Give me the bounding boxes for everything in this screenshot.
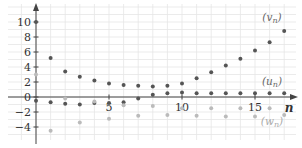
point-vn [253,49,257,53]
point-vn [49,56,53,60]
point-wn [151,104,155,108]
point-vn [165,84,169,88]
x-axis-arrow-icon [290,94,298,100]
y-tick-label: 0 [24,91,31,104]
point-vn [180,82,184,86]
point-vn [224,64,228,68]
point-vn [238,57,242,61]
y-tick-label: 10 [17,16,31,29]
point-vn [151,85,155,89]
point-un [180,91,184,95]
point-wn [136,114,140,118]
x-axis-label: n [285,101,294,115]
point-un [209,91,213,95]
point-vn [34,20,38,24]
sequence-chart: 1086420−2−451015 n (vn)(un)(wn) [0,0,302,148]
point-vn [78,75,82,79]
point-un [238,91,242,95]
series-label-vn: (vn) [262,11,281,25]
point-un [63,102,67,106]
point-vn [282,29,286,33]
point-un [78,103,82,107]
y-tick-label: 8 [24,31,31,44]
point-un [253,91,257,95]
point-un [224,91,228,95]
point-wn [268,106,272,110]
y-tick-label: 6 [24,46,31,59]
point-vn [195,76,199,80]
point-vn [92,79,96,83]
point-vn [136,84,140,88]
point-wn [253,115,257,119]
labels: n (vn)(un)(wn) [261,11,294,129]
point-wn [92,100,96,104]
point-un [34,99,38,103]
point-wn [107,117,111,121]
point-wn [238,106,242,110]
point-vn [107,82,111,86]
point-vn [209,70,213,74]
point-wn [34,73,38,77]
point-wn [180,106,184,110]
series-label-un: (un) [262,75,282,89]
y-tick-label: −2 [15,106,31,119]
y-tick-label: 4 [24,61,31,74]
series-label-wn: (wn) [261,115,283,129]
point-wn [224,115,228,119]
point-wn [49,129,53,133]
point-vn [122,83,126,87]
y-tick-label: 2 [24,76,31,89]
x-tick-label: 15 [248,101,262,114]
point-wn [209,106,213,110]
point-un [107,101,111,105]
point-wn [165,113,169,117]
point-vn [63,70,67,74]
point-un [268,91,272,95]
point-un [165,91,169,95]
grid [8,4,296,140]
point-un [49,100,53,104]
point-wn [195,114,199,118]
point-wn [122,103,126,107]
point-un [282,91,286,95]
point-un [195,91,199,95]
point-vn [268,40,272,44]
point-un [151,93,155,97]
point-un [136,97,140,101]
y-tick-label: −4 [15,121,31,134]
point-wn [78,121,82,125]
point-wn [63,97,67,101]
